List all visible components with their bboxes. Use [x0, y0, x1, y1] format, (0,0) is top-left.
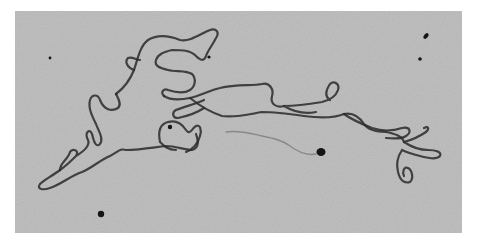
micrograph-field	[15, 11, 462, 233]
particle-top-left	[49, 57, 52, 60]
particle-top-loop	[207, 55, 210, 58]
particle-center-right	[317, 148, 326, 156]
micrograph-image	[0, 0, 478, 238]
particle-lower-left	[98, 211, 104, 217]
particle-right-small	[418, 57, 422, 61]
particle-center	[168, 125, 172, 129]
field-speckle	[15, 11, 462, 233]
